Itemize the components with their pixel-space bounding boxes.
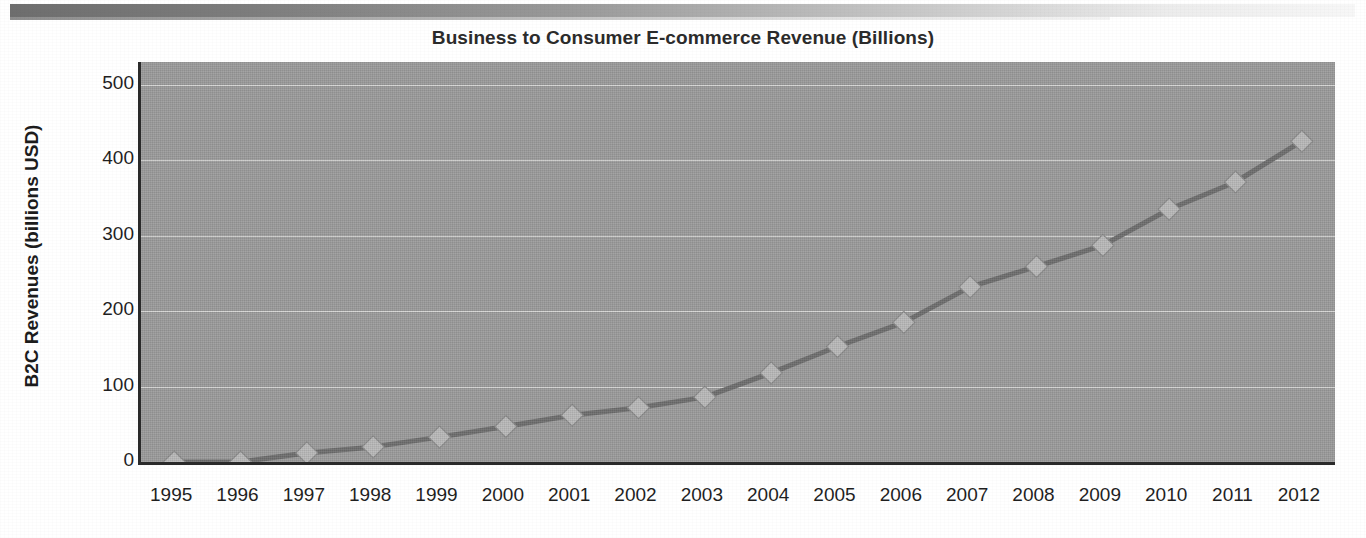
y-tick-label: 300 <box>72 223 134 245</box>
data-point-marker <box>1291 130 1313 152</box>
y-tick-label: 200 <box>72 298 134 320</box>
data-point-marker <box>429 426 451 448</box>
y-tick-label: 0 <box>72 449 134 471</box>
y-tick-label: 100 <box>72 374 134 396</box>
plot-area <box>138 62 1335 465</box>
data-point-marker <box>959 276 981 298</box>
data-point-marker <box>561 404 583 426</box>
x-axis-tick-labels: 1995199619971998199920002001200220032004… <box>138 484 1332 514</box>
data-series-line <box>141 62 1335 462</box>
data-point-marker <box>1092 234 1114 256</box>
data-point-marker <box>495 416 517 438</box>
data-point-marker <box>628 397 650 419</box>
data-point-marker <box>1225 171 1247 193</box>
series-line <box>174 141 1302 462</box>
y-axis-title: B2C Revenues (billions USD) <box>21 106 43 406</box>
y-tick-label: 400 <box>72 147 134 169</box>
chart-title: Business to Consumer E-commerce Revenue … <box>0 27 1366 49</box>
data-point-marker <box>296 442 318 462</box>
data-point-marker <box>362 436 384 458</box>
y-axis-tick-labels: 0100200300400500 <box>60 0 134 538</box>
data-point-marker <box>760 362 782 384</box>
x-tick-label: 2012 <box>1259 484 1339 506</box>
data-point-marker <box>1158 198 1180 220</box>
data-point-marker <box>694 386 716 408</box>
scan-artifact-bar <box>10 4 1355 17</box>
y-tick-label: 500 <box>72 72 134 94</box>
data-point-marker <box>163 451 185 462</box>
scan-artifact-bar-secondary <box>10 17 1110 20</box>
data-point-marker <box>230 451 252 462</box>
data-point-marker <box>893 311 915 333</box>
data-point-marker <box>827 336 849 358</box>
data-point-marker <box>1026 256 1048 278</box>
